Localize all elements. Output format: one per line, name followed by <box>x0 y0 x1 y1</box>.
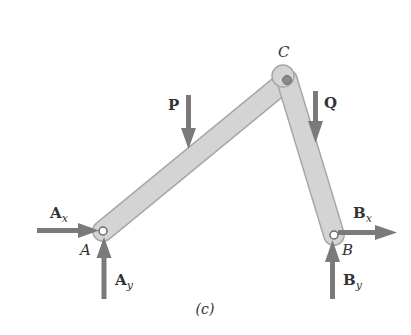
force-bx-arrow-icon <box>338 225 397 240</box>
force-ax-arrow-icon <box>37 223 99 238</box>
force-ay-arrow-icon <box>97 237 112 299</box>
frame-free-body-diagram: P Q Ax Ay A Bx By B C (c) <box>0 0 411 335</box>
figure-caption: (c) <box>196 301 215 317</box>
pin-b-icon <box>330 231 338 239</box>
pin-c-icon <box>283 76 292 85</box>
force-ax-label: Ax <box>49 204 69 225</box>
point-c-label: C <box>278 43 290 61</box>
force-q-label: Q <box>324 94 337 112</box>
force-p-arrow-icon <box>181 95 196 149</box>
force-by-label: By <box>343 271 363 292</box>
joint-c <box>272 65 294 87</box>
member-ac <box>103 80 287 231</box>
force-p-label: P <box>168 96 179 114</box>
point-b-label: B <box>341 241 353 259</box>
force-bx-label: Bx <box>353 204 373 225</box>
force-ay-label: Ay <box>114 271 134 292</box>
force-by-arrow-icon <box>325 240 340 299</box>
point-a-label: A <box>78 241 91 259</box>
pin-a-icon <box>99 227 107 235</box>
